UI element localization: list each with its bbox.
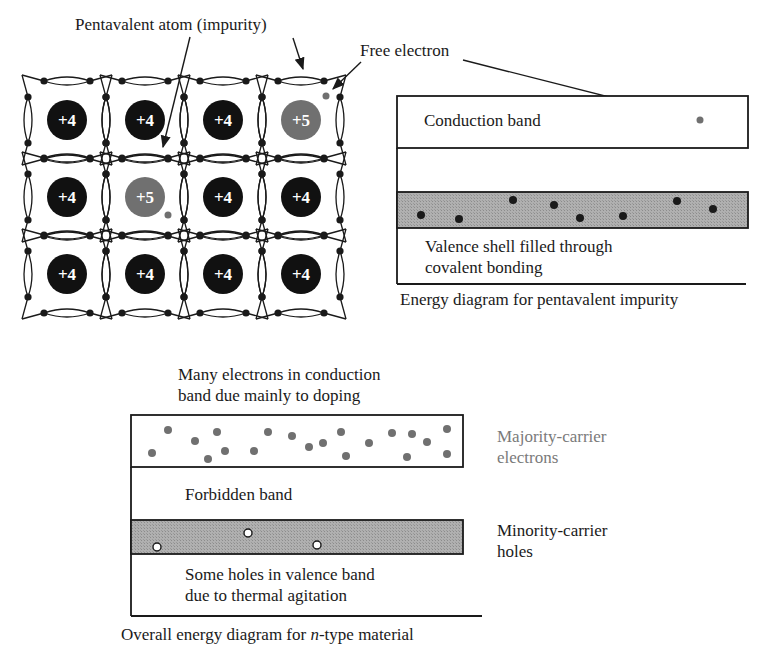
covalent-bond — [24, 174, 32, 220]
covalent-bond — [44, 309, 90, 317]
conduction-band-label: Conduction band — [424, 110, 541, 131]
majority-electron-dot — [443, 425, 451, 433]
majority-electron-dot — [342, 452, 350, 460]
minority-carrier-label-line2: holes — [497, 541, 533, 562]
atom-charge-label: +4 — [292, 188, 311, 207]
valence-electron-dot — [258, 139, 265, 146]
majority-electron-dot — [443, 450, 451, 458]
arrow-impurity-2 — [293, 38, 303, 69]
majority-electron-dot — [423, 438, 431, 446]
valence-electron-dot — [274, 309, 281, 316]
ntype-bottom-label-line1: Some holes in valence band — [185, 564, 375, 585]
valence-electron-dot — [180, 293, 187, 300]
valence-label-line1: Valence shell filled through — [425, 236, 612, 257]
valence-electron-dot — [242, 309, 249, 316]
covalent-bond — [278, 309, 324, 317]
caption-suffix: -type material — [319, 625, 414, 644]
majority-electron-dot — [319, 439, 327, 447]
hole-dot — [153, 543, 161, 551]
electron-dot — [509, 196, 517, 204]
pentavalent-caption: Energy diagram for pentavalent impurity — [400, 289, 678, 310]
valence-electron-dot — [336, 139, 343, 146]
ntype-conduction-band — [131, 415, 463, 467]
valence-electron-dot — [86, 231, 93, 238]
majority-electron-dot — [221, 447, 229, 455]
free-electron-dot — [165, 212, 172, 219]
majority-electron-dot — [305, 443, 313, 451]
valence-electron-dot — [180, 247, 187, 254]
covalent-bond — [102, 174, 110, 220]
majority-electron-dot — [191, 437, 199, 445]
valence-electron-dot — [336, 247, 343, 254]
valence-electron-dot — [196, 309, 203, 316]
covalent-bond — [180, 97, 188, 143]
caption-prefix: Overall energy diagram for — [121, 625, 310, 644]
covalent-bond — [258, 174, 266, 220]
majority-electron-dot — [403, 453, 411, 461]
valence-electron-dot — [336, 93, 343, 100]
valence-electron-dot — [258, 216, 265, 223]
lattice-cell: +4 — [178, 152, 268, 242]
covalent-bond — [336, 174, 344, 220]
valence-electron-dot — [242, 231, 249, 238]
valence-electron-dot — [164, 309, 171, 316]
atom-charge-label: +4 — [214, 265, 233, 284]
valence-electron-dot — [40, 154, 47, 161]
hole-dot — [313, 541, 321, 549]
covalent-bond — [336, 97, 344, 143]
lattice-cell: +4 — [178, 229, 268, 319]
atom-charge-label: +4 — [214, 111, 233, 130]
lattice-cell: +4 — [22, 229, 112, 319]
atom-charge-label: +5 — [292, 111, 310, 130]
valence-electron-dot — [24, 170, 31, 177]
covalent-bond — [336, 251, 344, 297]
covalent-bond — [180, 174, 188, 220]
majority-electron-dot — [337, 428, 345, 436]
majority-electron-dot — [213, 428, 221, 436]
covalent-bond — [258, 251, 266, 297]
atom-charge-label: +4 — [58, 265, 77, 284]
valence-electron-dot — [180, 139, 187, 146]
lattice-cell: +4 — [22, 75, 112, 165]
electron-dot — [619, 212, 627, 220]
valence-electron-dot — [118, 154, 125, 161]
majority-carrier-label-line1: Majority-carrier — [497, 426, 607, 447]
covalent-bond — [102, 251, 110, 297]
valence-electron-dot — [24, 93, 31, 100]
pentavalent-atom-label: Pentavalent atom (impurity) — [75, 14, 267, 35]
valence-electron-dot — [180, 216, 187, 223]
covalent-bond — [258, 174, 266, 220]
lattice-cell: +5 — [100, 152, 190, 242]
valence-electron-dot — [258, 293, 265, 300]
valence-electron-dot — [196, 154, 203, 161]
valence-electron-dot — [320, 77, 327, 84]
valence-electron-dot — [102, 216, 109, 223]
valence-electron-dot — [196, 231, 203, 238]
ntype-top-label-line1: Many electrons in conduction — [178, 364, 381, 385]
covalent-bond — [180, 251, 188, 297]
covalent-bond — [24, 251, 32, 297]
valence-electron-dot — [102, 293, 109, 300]
lattice-cell: +5 — [256, 75, 346, 165]
atom-charge-label: +4 — [292, 265, 311, 284]
valence-electron-dot — [164, 154, 171, 161]
valence-electron-dot — [320, 309, 327, 316]
covalent-bond — [258, 97, 266, 143]
valence-electron-dot — [258, 247, 265, 254]
valence-electron-dot — [258, 170, 265, 177]
valence-electron-dot — [40, 309, 47, 316]
crystal-lattice: +4+4+4+5+4+5+4+4+4+4+4+4 — [22, 75, 346, 319]
lattice-cell: +4 — [22, 152, 112, 242]
atom-charge-label: +4 — [58, 111, 77, 130]
valence-electron-dot — [24, 293, 31, 300]
covalent-bond — [122, 77, 168, 85]
atom-charge-label: +4 — [58, 188, 77, 207]
majority-electron-dot — [148, 449, 156, 457]
valence-electron-dot — [118, 231, 125, 238]
majority-electron-dot — [250, 447, 258, 455]
valence-electron-dot — [102, 93, 109, 100]
valence-electron-dot — [40, 231, 47, 238]
arrow-free-electron — [333, 62, 361, 89]
electron-dot — [576, 214, 584, 222]
covalent-bond — [200, 77, 246, 85]
